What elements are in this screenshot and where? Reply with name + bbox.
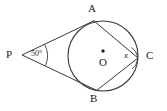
angle-value-x: x [124,51,128,60]
point-label-a: A [88,3,96,14]
point-label-o: O [99,57,107,68]
point-label-p: P [6,49,12,60]
angle-arc-p [45,44,48,65]
geometry-figure: A B C P O 50° x [0,0,167,111]
tangent-segment-pb [22,55,97,91]
center-dot [101,49,104,52]
geometry-diagram [0,0,167,111]
chord-segment-ac [94,21,139,59]
angle-value-p: 50° [31,50,42,58]
point-label-c: C [146,50,153,61]
point-label-b: B [90,93,97,104]
